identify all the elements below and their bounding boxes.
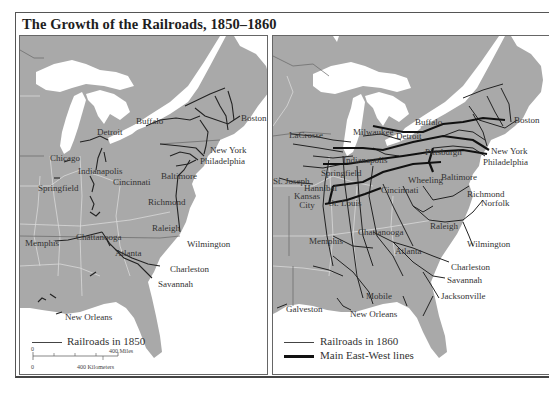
city-label-philadelphia: Philadelphia	[200, 157, 245, 166]
city-label-philadelphia: Philadelphia	[483, 158, 528, 167]
city-label-chattanooga: Chattanooga	[76, 233, 122, 242]
city-label-mobile: Mobile	[366, 292, 392, 301]
city-label-new-york: New York	[210, 146, 247, 155]
scale-zero-miles: 0	[31, 346, 34, 352]
city-label-galveston: Galveston	[286, 305, 323, 314]
legend-main-east-west-lines: Main East-West lines	[320, 349, 414, 361]
city-label-cincinnati: Cincinnati	[381, 186, 419, 195]
legend-railroads-1860: Railroads in 1860	[320, 335, 398, 347]
city-label-springfield: Springfield	[321, 169, 362, 178]
city-label-detroit: Detroit	[97, 128, 123, 137]
city-label-indianapolis: Indianapolis	[343, 156, 388, 165]
scale-km-label: 400 Kilometers	[77, 364, 114, 370]
city-label-milwaukee: Milwaukee	[353, 128, 394, 137]
city-label-raleigh: Raleigh	[152, 224, 180, 233]
city-label-st-louis: St. Louis	[329, 199, 362, 208]
city-label-raleigh: Raleigh	[430, 222, 458, 231]
legend-thin-line-swatch	[284, 342, 314, 343]
city-label-wilmington: Wilmington	[467, 240, 510, 249]
city-label-norfolk: Norfolk	[481, 199, 510, 208]
city-label-buffalo: Buffalo	[415, 118, 442, 127]
city-label-chicago: Chicago	[50, 154, 80, 163]
city-label-richmond: Richmond	[148, 198, 186, 207]
city-label-boston: Boston	[514, 116, 540, 125]
legend-thin-line-swatch	[32, 342, 62, 343]
map-1850: Detroit Buffalo Boston New York Philadel…	[19, 35, 268, 375]
city-label-baltimore: Baltimore	[441, 173, 477, 182]
city-label-memphis: Memphis	[309, 237, 343, 246]
city-label-boston: Boston	[241, 114, 267, 123]
scale-miles-label: 400 Miles	[109, 348, 133, 354]
city-label-memphis: Memphis	[25, 239, 59, 248]
city-label-kansas-city: Kansas City	[293, 192, 321, 210]
legend-railroads-1850: Railroads in 1850	[67, 335, 145, 347]
city-label-charleston: Charleston	[170, 265, 209, 274]
city-label-cincinnati: Cincinnati	[113, 178, 151, 187]
city-label-baltimore: Baltimore	[161, 172, 197, 181]
city-label-savannah: Savannah	[158, 280, 193, 289]
city-label-pittsburgh: Pittsburgh	[425, 148, 462, 157]
city-label-atlanta: Atlanta	[115, 249, 142, 258]
city-label-springfield: Springfield	[38, 184, 79, 193]
city-label-new-orleans: New Orleans	[65, 313, 112, 322]
map-1850-basemap	[20, 36, 268, 375]
city-label-chattanooga: Chattanooga	[358, 228, 404, 237]
city-label-jacksonville: Jacksonville	[441, 292, 486, 301]
city-label-new-york: New York	[491, 147, 528, 156]
city-label-wilmington: Wilmington	[187, 240, 230, 249]
city-label-indianapolis: Indianapolis	[78, 167, 123, 176]
scale-zero-km: 0	[31, 364, 34, 370]
city-label-wheeling: Wheeling	[408, 176, 443, 185]
map-1860: LaCrosse Milwaukee Detroit Buffalo Bosto…	[272, 35, 549, 375]
city-label-lacrosse: LaCrosse	[289, 131, 323, 140]
city-label-new-orleans: New Orleans	[350, 310, 397, 319]
city-label-charleston: Charleston	[451, 263, 490, 272]
city-label-atlanta: Atlanta	[395, 247, 422, 256]
city-label-detroit: Detroit	[396, 132, 422, 141]
city-label-savannah: Savannah	[447, 276, 482, 285]
figure-title: The Growth of the Railroads, 1850–1860	[22, 16, 277, 33]
city-label-buffalo: Buffalo	[136, 117, 163, 126]
legend-thick-line-swatch	[284, 355, 314, 358]
